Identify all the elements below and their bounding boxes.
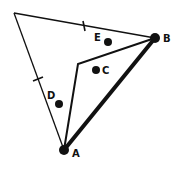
label-b: B [163,33,171,44]
label-e: E [94,32,101,43]
label-a: A [72,148,80,159]
point-e [104,38,112,46]
edge-a-b [64,38,155,150]
point-c [92,66,100,74]
point-d [55,100,63,108]
edge-top-a [14,13,64,150]
point-a [59,145,69,155]
triangle-diagram: A B C D E [0,0,182,171]
label-d: D [47,90,55,101]
tick-mark-top [83,21,85,31]
label-c: C [102,65,109,76]
point-b [150,33,160,43]
